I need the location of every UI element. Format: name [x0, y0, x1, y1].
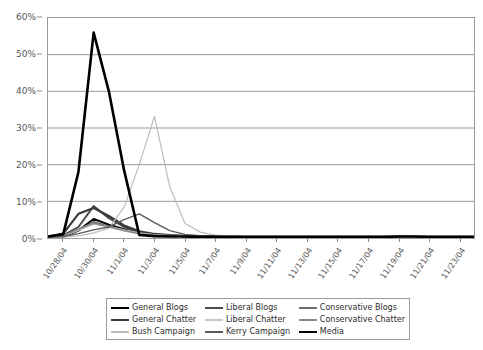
series-line [48, 208, 474, 237]
y-axis: 0%10%20%30%40%50%60% [0, 17, 42, 239]
x-tick-mark [368, 238, 369, 242]
series-line [48, 33, 474, 237]
y-tick-label: 0% [22, 235, 36, 244]
legend-label: Conservative Blogs [320, 304, 397, 312]
legend-swatch-icon [111, 307, 129, 310]
y-tick-mark [37, 239, 42, 240]
legend-label: Conservative Chatter [320, 316, 405, 324]
line-chart: 0%10%20%30%40%50%60% 10/28/0410/30/0411/… [0, 0, 483, 350]
legend-label: Liberal Blogs [226, 304, 278, 312]
plot-svg [48, 18, 474, 238]
legend-swatch-icon [205, 319, 223, 321]
y-tick-label: 20% [16, 161, 36, 170]
y-tick-mark [37, 17, 42, 18]
x-tick-mark [460, 238, 461, 242]
legend-item[interactable]: Conservative Blogs [299, 304, 405, 312]
legend-grid: General BlogsLiberal BlogsConservative B… [111, 302, 405, 338]
y-tick-mark [37, 54, 42, 55]
legend-label: Bush Campaign [132, 328, 195, 336]
plot-area [47, 17, 475, 239]
legend: General BlogsLiberal BlogsConservative B… [106, 298, 410, 340]
legend-item[interactable]: Kerry Campaign [205, 328, 299, 336]
x-tick-mark [307, 238, 308, 242]
legend-label: General Chatter [132, 316, 196, 324]
legend-label: General Blogs [132, 304, 188, 312]
legend-item[interactable]: General Blogs [111, 304, 205, 312]
legend-swatch-icon [299, 319, 317, 321]
x-tick-mark [337, 238, 338, 242]
legend-swatch-icon [111, 331, 129, 332]
x-tick-mark [93, 238, 94, 242]
legend-item[interactable]: Liberal Chatter [205, 316, 299, 324]
x-tick-mark [276, 238, 277, 242]
y-tick-mark [37, 128, 42, 129]
x-tick-mark [399, 238, 400, 242]
legend-label: Liberal Chatter [226, 316, 286, 324]
legend-swatch-icon [205, 307, 223, 309]
y-tick-label: 10% [16, 198, 36, 207]
legend-swatch-icon [299, 331, 317, 334]
x-tick-mark [185, 238, 186, 242]
legend-item[interactable]: General Chatter [111, 316, 205, 324]
y-tick-mark [37, 202, 42, 203]
legend-label: Kerry Campaign [226, 328, 290, 336]
x-tick-label: 11/23/04 [431, 245, 469, 294]
legend-item[interactable]: Conservative Chatter [299, 316, 405, 324]
y-tick-label: 40% [16, 87, 36, 96]
x-tick-mark [429, 238, 430, 242]
y-tick-label: 30% [16, 124, 36, 133]
y-tick-label: 60% [16, 13, 36, 22]
legend-swatch-icon [299, 307, 317, 309]
x-tick-mark [154, 238, 155, 242]
legend-label: Media [320, 328, 344, 336]
x-tick-mark [62, 238, 63, 242]
legend-swatch-icon [205, 331, 223, 333]
y-tick-mark [37, 91, 42, 92]
x-axis: 10/28/0410/30/0411/1/0411/3/0411/5/0411/… [47, 241, 475, 296]
y-tick-mark [37, 165, 42, 166]
y-tick-label: 50% [16, 50, 36, 59]
series-line [48, 206, 474, 237]
legend-item[interactable]: Liberal Blogs [205, 304, 299, 312]
x-tick-mark [123, 238, 124, 242]
x-tick-mark [215, 238, 216, 242]
legend-swatch-icon [111, 319, 129, 322]
x-tick-mark [246, 238, 247, 242]
legend-item[interactable]: Bush Campaign [111, 328, 205, 336]
legend-item[interactable]: Media [299, 328, 405, 336]
